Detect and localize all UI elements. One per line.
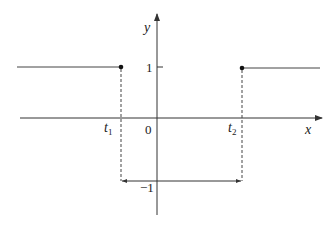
function-graph: y x 0 1 −1 t1 t2 — [0, 0, 336, 229]
y-axis-label: y — [142, 20, 151, 35]
right-endpoint-dot — [240, 66, 245, 71]
t1-label: t1 — [104, 120, 112, 137]
origin-label: 0 — [145, 122, 152, 137]
x-axis-label: x — [304, 122, 312, 137]
y-tick-label-1: 1 — [146, 60, 153, 75]
y-tick-label-neg1: −1 — [140, 180, 154, 195]
t2-label: t2 — [228, 120, 236, 137]
left-endpoint-dot — [119, 65, 124, 70]
